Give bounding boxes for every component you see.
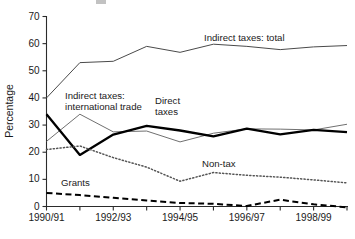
series-grants [47, 193, 348, 207]
y-tick-label-70: 70 [28, 11, 40, 22]
x-tick-label-1996-97: 1996/97 [229, 212, 266, 223]
x-tick-label-1994-95: 1994/95 [162, 212, 199, 223]
y-axis-group: 010203040506070 Percentage [3, 11, 47, 212]
label-direct-taxes-line2: taxes [155, 106, 178, 117]
x-tick-label-1992-93: 1992/93 [95, 212, 132, 223]
annotation-group: Indirect taxes: total Indirect taxes: in… [61, 32, 285, 188]
x-axis-group: 1990/911992/931994/951996/971998/99 [28, 207, 348, 223]
cropped-artifact [96, 0, 106, 4]
y-tick-label-60: 60 [28, 38, 40, 49]
line-chart: 010203040506070 Percentage 1990/911992/9… [0, 0, 355, 239]
label-indirect-taxes-international-trade-line1: Indirect taxes: [65, 90, 125, 101]
series-indirect-taxes-international-trade [47, 114, 348, 142]
y-tick-label-10: 10 [28, 173, 40, 184]
series-group [47, 44, 348, 207]
x-tick-label-1990-91: 1990/91 [28, 212, 65, 223]
label-non-tax: Non-tax [202, 158, 236, 169]
y-axis-title: Percentage [3, 84, 15, 138]
y-tick-group: 010203040506070 [28, 11, 46, 212]
y-tick-label-0: 0 [34, 201, 40, 212]
label-grants: Grants [61, 177, 90, 188]
y-tick-label-20: 20 [28, 146, 40, 157]
chart-container: 010203040506070 Percentage 1990/911992/9… [0, 0, 355, 239]
label-indirect-taxes-total: Indirect taxes: total [204, 32, 285, 43]
y-tick-label-50: 50 [28, 65, 40, 76]
x-tick-label-1998-99: 1998/99 [296, 212, 333, 223]
label-direct-taxes-line1: Direct [155, 95, 180, 106]
x-tick-group: 1990/911992/931994/951996/971998/99 [28, 207, 347, 223]
label-indirect-taxes-international-trade-line2: international trade [65, 101, 142, 112]
y-tick-label-30: 30 [28, 119, 40, 130]
series-non-tax [47, 146, 348, 183]
y-tick-label-40: 40 [28, 92, 40, 103]
